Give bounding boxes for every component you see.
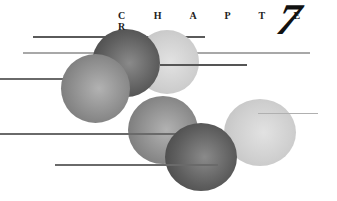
decorative-line <box>160 64 247 66</box>
chapter-opener-graphic: C H A P T E R 7 <box>0 0 337 201</box>
decorative-line <box>0 78 70 80</box>
decorative-line <box>55 164 218 166</box>
decorative-line <box>0 133 180 135</box>
decorative-line <box>258 113 318 114</box>
sphere-dark-bottom <box>165 123 237 191</box>
sphere-mid-left <box>61 54 130 123</box>
chapter-label: C H A P T E R <box>118 10 337 32</box>
